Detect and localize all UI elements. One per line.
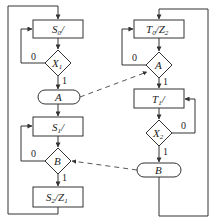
- x2-zero-label: 0: [181, 120, 186, 131]
- state-s1: S1/: [33, 117, 83, 136]
- b-zero-label: 0: [31, 148, 36, 159]
- left-state-machine: S0/ X1 0 1 A S1/ B 0 1: [8, 6, 83, 214]
- right-state-machine: T0/Z2 A 0 1 T1/ X2 0 1 B: [122, 9, 208, 216]
- state-t0: T0/Z2: [134, 20, 184, 38]
- right-outer-loop: [159, 9, 208, 216]
- output-a-label: A: [54, 91, 62, 103]
- x2-one-label: 1: [163, 146, 168, 157]
- decision-a: A: [146, 52, 172, 78]
- decision-a-label: A: [154, 59, 162, 71]
- conditional-output-a: A: [38, 90, 80, 104]
- signal-link-b: [72, 161, 137, 170]
- a-zero-label: 0: [132, 52, 137, 63]
- decision-b: B: [45, 148, 71, 174]
- state-s2: S2/Z1: [33, 187, 83, 207]
- x1-one-label: 1: [62, 75, 67, 86]
- asm-chart: S0/ X1 0 1 A S1/ B 0 1: [0, 0, 213, 222]
- conditional-output-b: B: [137, 163, 181, 177]
- b-one-label: 1: [62, 172, 67, 183]
- x1-zero-label: 0: [31, 51, 36, 62]
- decision-x1: X1: [45, 50, 71, 76]
- output-b-label: B: [155, 164, 162, 176]
- decision-x2: X2: [146, 120, 172, 146]
- decision-b-label: B: [54, 155, 61, 167]
- a-one-label: 1: [163, 76, 168, 87]
- state-t1: T1/: [134, 89, 184, 108]
- state-s0: S0/: [33, 20, 83, 38]
